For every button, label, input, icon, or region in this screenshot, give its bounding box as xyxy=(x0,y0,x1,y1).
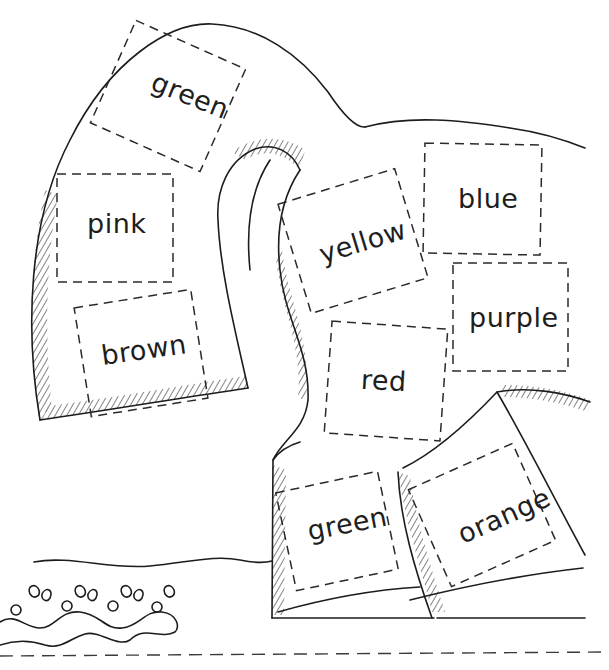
region-label-blue: blue xyxy=(458,183,518,214)
grass-border-decoration xyxy=(0,586,177,647)
worksheet-canvas: green pink brown yellow blue purple red … xyxy=(0,0,609,670)
region-label-red: red xyxy=(360,364,407,397)
region-label-purple: purple xyxy=(469,302,559,333)
region-label-pink: pink xyxy=(87,208,146,239)
cut-line xyxy=(0,652,609,656)
ground-line xyxy=(34,558,272,566)
elephant-drawing xyxy=(0,0,609,670)
